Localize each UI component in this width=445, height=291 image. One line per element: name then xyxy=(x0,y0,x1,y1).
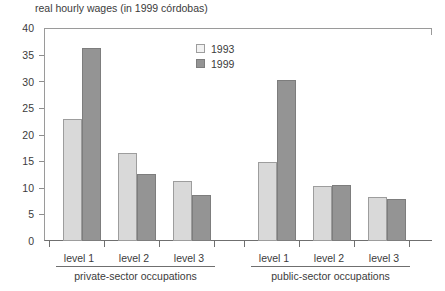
x-tick-mark xyxy=(104,241,105,247)
legend-swatch-1993-icon xyxy=(196,44,205,53)
x-label-private-level3: level 3 xyxy=(161,252,217,264)
bar-public-level1-1993[interactable] xyxy=(258,162,277,241)
x-axis-ticks xyxy=(45,241,432,251)
legend-label-1993: 1993 xyxy=(211,43,234,55)
y-tick-label-30: 30 xyxy=(8,77,34,87)
y-axis: 40 35 30 25 20 15 10 5 0 xyxy=(0,0,44,241)
y-tick-label-5: 5 xyxy=(8,209,34,219)
x-label-public-level1: level 1 xyxy=(246,252,302,264)
bar-private-level3-1993[interactable] xyxy=(173,181,192,241)
x-tick-mark xyxy=(49,241,50,247)
bar-private-level1-1993[interactable] xyxy=(63,119,82,242)
sector-label-public: public-sector occupations xyxy=(251,270,410,282)
bar-private-level1-1999[interactable] xyxy=(82,48,101,241)
chart-axis-title: real hourly wages (in 1999 córdobas) xyxy=(35,2,208,14)
bar-private-level2-1999[interactable] xyxy=(137,174,156,241)
x-tick-mark xyxy=(159,241,160,247)
y-tick-label-35: 35 xyxy=(8,50,34,60)
legend: 1993 1999 xyxy=(196,42,234,72)
legend-swatch-1999-icon xyxy=(196,59,205,68)
y-tick-label-15: 15 xyxy=(8,156,34,166)
x-label-private-level1: level 1 xyxy=(51,252,107,264)
bar-public-level2-1993[interactable] xyxy=(313,186,332,241)
y-tick-label-0: 0 xyxy=(8,236,34,246)
legend-item-1993[interactable]: 1993 xyxy=(196,42,234,55)
bar-public-level3-1999[interactable] xyxy=(387,199,406,241)
x-tick-mark xyxy=(244,241,245,247)
bar-private-level3-1999[interactable] xyxy=(192,195,211,241)
bar-public-level3-1993[interactable] xyxy=(368,197,387,241)
x-label-public-level3: level 3 xyxy=(356,252,412,264)
y-tick-label-40: 40 xyxy=(8,23,34,33)
bar-public-level1-1999[interactable] xyxy=(277,80,296,241)
chart-container: real hourly wages (in 1999 córdobas) 40 … xyxy=(0,0,445,291)
x-tick-mark xyxy=(354,241,355,247)
x-label-private-level2: level 2 xyxy=(106,252,162,264)
y-tick-label-10: 10 xyxy=(8,183,34,193)
bars-layer xyxy=(45,28,432,241)
private-sector-underline xyxy=(56,266,215,267)
x-label-public-level2: level 2 xyxy=(301,252,357,264)
public-sector-underline xyxy=(251,266,410,267)
y-tick-label-20: 20 xyxy=(8,130,34,140)
x-tick-mark xyxy=(299,241,300,247)
sector-label-private: private-sector occupations xyxy=(56,270,215,282)
bar-private-level2-1993[interactable] xyxy=(118,153,137,241)
x-tick-mark xyxy=(409,241,410,247)
x-tick-mark xyxy=(214,241,215,247)
legend-label-1999: 1999 xyxy=(211,58,234,70)
y-tick-label-25: 25 xyxy=(8,103,34,113)
bar-public-level2-1999[interactable] xyxy=(332,185,351,241)
legend-item-1999[interactable]: 1999 xyxy=(196,57,234,70)
